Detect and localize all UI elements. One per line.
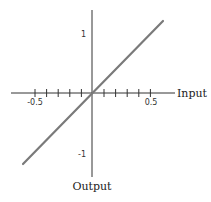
y-tick-label-neg: -1 — [78, 150, 86, 159]
x-axis-title: Input — [177, 87, 208, 100]
x-tick-label-neg: -0.5 — [27, 98, 43, 107]
y-axis-title: Output — [72, 180, 112, 193]
x-tick-label-pos: 0.5 — [145, 98, 158, 107]
y-tick-label-pos: 1 — [81, 30, 86, 39]
linear-function-diagram: -0.5 0.5 1 -1 Input Output — [0, 0, 211, 202]
